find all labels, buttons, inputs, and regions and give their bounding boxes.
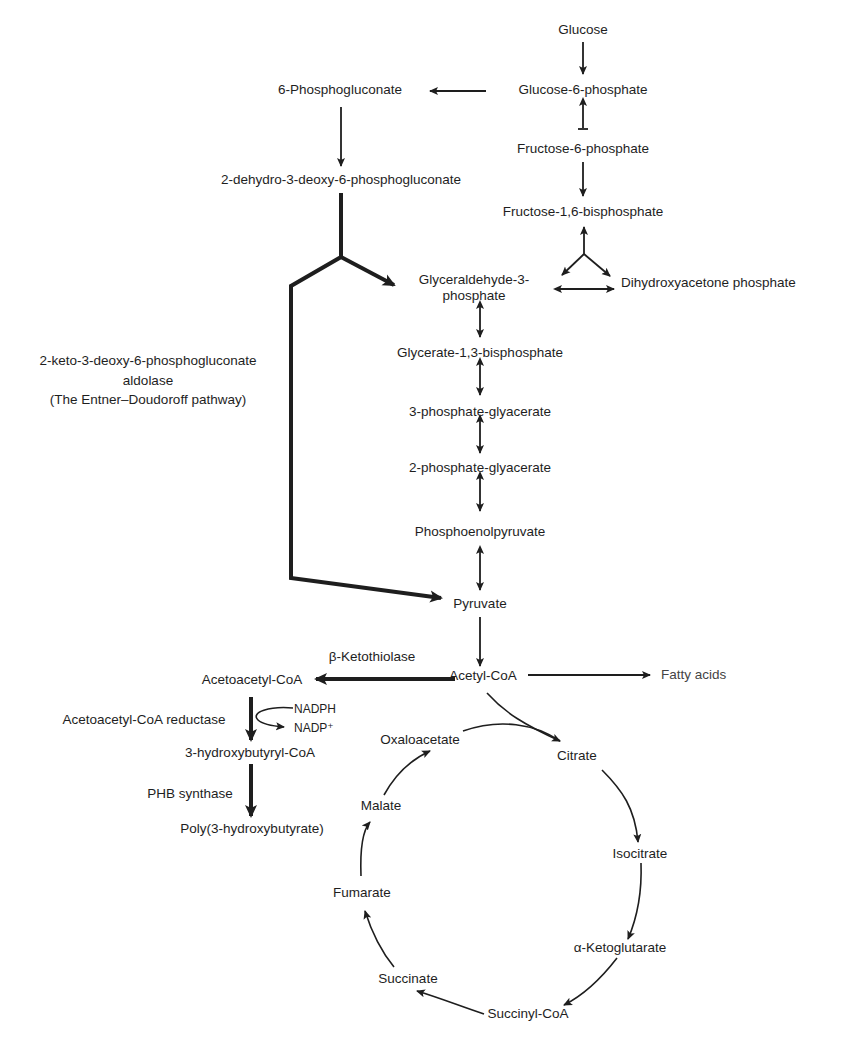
node-succinate: Succinate [378, 971, 437, 987]
ed-enzyme-line3: (The Entner–Doudoroff pathway) [40, 390, 257, 410]
node-3-hydroxybutyryl-coa: 3-hydroxybutyryl-CoA [185, 745, 315, 761]
node-citrate: Citrate [557, 748, 597, 764]
node-poly-3-hydroxybutyrate: Poly(3-hydroxybutyrate) [180, 821, 323, 837]
enzyme-acetoacetyl-coa-reductase: Acetoacetyl-CoA reductase [63, 712, 226, 728]
node-malate: Malate [361, 798, 402, 814]
node-kdpg: 2-dehydro-3-deoxy-6-phosphogluconate [221, 172, 461, 188]
node-6-phosphogluconate: 6-Phosphogluconate [278, 82, 402, 98]
cofactor-nadp: NADP⁺ [294, 720, 334, 736]
ed-enzyme-line1: 2-keto-3-deoxy-6-phosphogluconate [40, 351, 257, 371]
ed-enzyme-line2: aldolase [40, 371, 257, 391]
node-acetoacetyl-coa: Acetoacetyl-CoA [202, 672, 303, 688]
node-fatty-acids: Fatty acids [661, 667, 726, 683]
arrow-ed-g3p [341, 257, 394, 285]
node-dihydroxyacetone-phosphate: Dihydroxyacetone phosphate [621, 275, 796, 291]
node-fructose-6-phosphate: Fructose-6-phosphate [517, 141, 649, 157]
enzyme-beta-ketothiolase: β-Ketothiolase [329, 649, 416, 665]
ed-aldolase-label: 2-keto-3-deoxy-6-phosphogluconate aldola… [40, 351, 257, 410]
g3p-line1: Glyceraldehyde-3- [419, 272, 529, 288]
node-glycerate-1-3-bisphosphate: Glycerate-1,3-bisphosphate [397, 345, 563, 361]
pathway-arrows [0, 0, 842, 1039]
enzyme-phb-synthase: PHB synthase [147, 786, 233, 802]
cofactor-nadph: NADPH [294, 701, 336, 717]
metabolic-pathway-diagram: Glucose Glucose-6-phosphate Fructose-6-p… [0, 0, 842, 1039]
node-alpha-ketoglutarate: α-Ketoglutarate [574, 940, 667, 956]
node-phosphoenolpyruvate: Phosphoenolpyruvate [415, 524, 546, 540]
node-oxaloacetate: Oxaloacetate [380, 732, 460, 748]
node-isocitrate: Isocitrate [613, 846, 668, 862]
node-fructose-1-6-bisphosphate: Fructose-1,6-bisphosphate [503, 204, 664, 220]
node-2-phosphate-glycerate: 2-phosphate-glyacerate [409, 460, 551, 476]
g3p-line2: phosphate [419, 288, 529, 304]
node-pyruvate: Pyruvate [453, 596, 506, 612]
node-glyceraldehyde-3-phosphate: Glyceraldehyde-3- phosphate [419, 272, 529, 304]
node-glucose: Glucose [558, 22, 608, 38]
node-fumarate: Fumarate [333, 885, 391, 901]
node-acetyl-coa: Acetyl-CoA [449, 668, 517, 684]
node-succinyl-coa: Succinyl-CoA [487, 1006, 568, 1022]
node-3-phosphate-glycerate: 3-phosphate-glyacerate [409, 404, 551, 420]
node-glucose-6-phosphate: Glucose-6-phosphate [518, 82, 647, 98]
